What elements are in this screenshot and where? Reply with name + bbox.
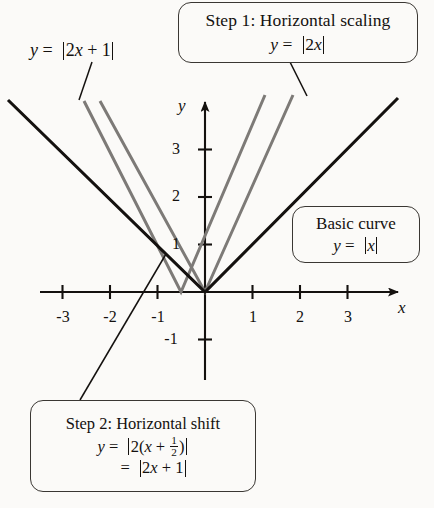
curve-label-shifted-two: 2 (66, 40, 75, 60)
abs-bar-right-icon (186, 438, 187, 455)
curve-label-shifted-equals: = (43, 40, 53, 60)
x-tick-label--1: -1 (139, 308, 177, 326)
y-tick-label--1: -1 (152, 330, 190, 348)
callout-step2-equation-2: = 2x + 1 (99, 459, 188, 478)
leader-line-step1-callout (290, 62, 307, 96)
callout-step2-x-2: x (150, 458, 157, 477)
abs-bar-left-icon (303, 36, 304, 54)
callout-step1-equals: = (283, 34, 293, 54)
callout-basic-equals: = (345, 236, 355, 255)
abs-bar-right-icon (112, 42, 113, 60)
callout-step1-y: y (270, 34, 278, 54)
curve-label-shifted-y: y (30, 40, 38, 60)
leader-line-shifted-label (79, 62, 92, 100)
callout-step2-plus-one: + 1 (162, 458, 184, 477)
abs-bar-left-icon (365, 237, 366, 254)
callout-basic-y: y (333, 236, 341, 255)
leader-line-step2-callout (80, 254, 166, 400)
callout-step2-y: y (98, 436, 105, 455)
curve-label-shifted-x: x (75, 40, 83, 60)
callout-step2-x: x (144, 436, 151, 455)
callout-step2-equation-1: y = 2(x + 12) (98, 435, 189, 459)
y-axis-name: y (178, 96, 186, 116)
callout-basic-equation: y = x (333, 236, 378, 256)
absolute-value-transformation-figure: -3 -2 -1 1 2 3 3 2 1 -1 y x y = 2x + 1 S… (0, 0, 434, 508)
curve-label-shifted: y = 2x + 1 (30, 40, 115, 61)
x-tick-label--2: -2 (91, 308, 129, 326)
x-tick-label-2: 2 (286, 308, 314, 326)
fraction-denominator: 2 (170, 447, 178, 458)
callout-step1-equation: y = 2x (270, 34, 325, 54)
callout-step2-horizontal-shift: Step 2: Horizontal shift y = 2(x + 12) =… (30, 400, 256, 492)
callout-step1-x: x (314, 34, 322, 54)
callout-basic-x: x (367, 236, 375, 255)
curve-scaled-abs-2x (100, 95, 293, 292)
callout-step2-title: Step 2: Horizontal shift (66, 414, 220, 434)
abs-bar-right-icon (376, 237, 377, 254)
abs-bar-left-icon (128, 438, 129, 455)
callout-basic-title: Basic curve (316, 214, 396, 234)
callout-step2-plus: + (156, 436, 165, 455)
x-axis-name: x (398, 298, 406, 318)
callout-step1-horizontal-scaling: Step 1: Horizontal scaling y = 2x (178, 2, 418, 63)
callout-step2-close-paren: ) (179, 436, 185, 455)
abs-bar-left-icon (140, 460, 141, 477)
callout-basic-curve: Basic curve y = x (292, 206, 420, 263)
abs-bar-right-icon (323, 36, 324, 54)
callout-step2-equals-2: = (121, 458, 130, 477)
y-tick-label-3: 3 (162, 140, 190, 158)
x-tick-label-1: 1 (239, 308, 267, 326)
callout-step2-equals: = (109, 436, 118, 455)
y-tick-label-2: 2 (162, 187, 190, 205)
x-tick-label--3: -3 (44, 308, 82, 326)
x-tick-label-3: 3 (334, 308, 362, 326)
callout-step2-two-open: 2( (131, 436, 145, 455)
abs-bar-right-icon (185, 460, 186, 477)
curve-label-shifted-plus-one: + 1 (87, 40, 111, 60)
callout-step1-title: Step 1: Horizontal scaling (206, 10, 391, 31)
y-tick-label-1: 1 (162, 235, 190, 253)
fraction-one-half: 12 (170, 435, 178, 459)
callout-step1-two: 2 (305, 34, 314, 54)
abs-bar-left-icon (63, 42, 64, 60)
